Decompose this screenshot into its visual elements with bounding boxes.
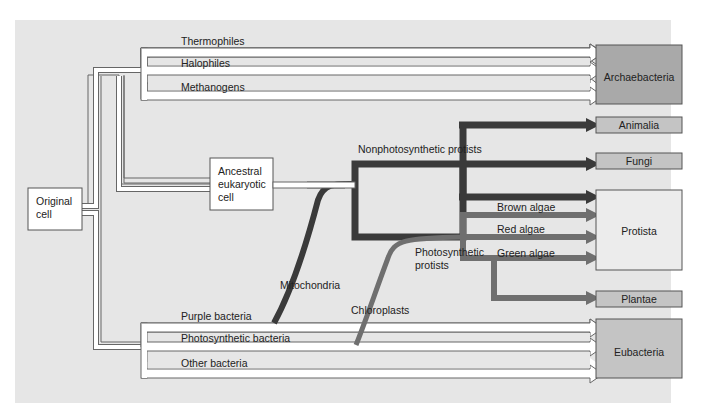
label-photosynthetic-bacteria: Photosynthetic bacteria xyxy=(181,332,290,344)
eubacteria-arrows xyxy=(141,319,603,383)
svg-text:Ancestral: Ancestral xyxy=(218,165,262,177)
label-purple-bacteria: Purple bacteria xyxy=(181,310,252,322)
label-red-algae: Red algae xyxy=(497,223,545,235)
label-thermophiles: Thermophiles xyxy=(181,35,245,47)
label-photosynthetic-protists: Photosynthetic xyxy=(415,246,484,258)
label-methanogens: Methanogens xyxy=(181,81,245,93)
kingdom-fungi: Fungi xyxy=(596,153,682,169)
svg-text:Original: Original xyxy=(36,195,72,207)
evolution-diagram: Original cell Ancestral eukaryotic cell … xyxy=(0,0,713,418)
svg-text:Protista: Protista xyxy=(621,225,657,237)
svg-text:Plantae: Plantae xyxy=(621,293,657,305)
archaebacteria-arrows xyxy=(141,44,603,105)
kingdom-protista: Protista xyxy=(596,190,682,270)
label-mitochondria: Mitochondria xyxy=(280,279,340,291)
kingdom-animalia: Animalia xyxy=(596,117,682,133)
svg-text:cell: cell xyxy=(36,208,52,220)
svg-text:protists: protists xyxy=(415,259,449,271)
kingdom-archaebacteria: Archaebacteria xyxy=(596,45,682,104)
ancestral-cell-box: Ancestral eukaryotic cell xyxy=(210,158,273,210)
svg-text:Animalia: Animalia xyxy=(619,119,659,131)
svg-text:eukaryotic: eukaryotic xyxy=(218,178,266,190)
kingdom-plantae: Plantae xyxy=(596,291,682,307)
label-nonphotosynthetic-protists: Nonphotosynthetic protists xyxy=(358,143,482,155)
svg-text:Eubacteria: Eubacteria xyxy=(614,346,664,358)
kingdom-eubacteria: Eubacteria xyxy=(596,319,682,378)
svg-text:Archaebacteria: Archaebacteria xyxy=(604,71,675,83)
label-halophiles: Halophiles xyxy=(181,57,230,69)
original-cell-box: Original cell xyxy=(28,188,82,230)
label-brown-algae: Brown algae xyxy=(497,201,556,213)
svg-text:Fungi: Fungi xyxy=(626,155,652,167)
label-chloroplasts: Chloroplasts xyxy=(351,304,409,316)
svg-text:cell: cell xyxy=(218,191,234,203)
label-green-algae: Green algae xyxy=(497,247,555,259)
label-other-bacteria: Other bacteria xyxy=(181,357,248,369)
